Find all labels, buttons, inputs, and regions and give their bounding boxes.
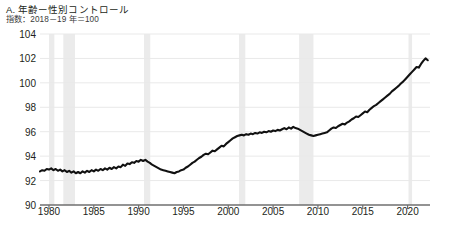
- x-axis-tick-label: 2020: [396, 206, 418, 217]
- y-axis-tick-label: 102: [19, 53, 36, 64]
- x-axis-tick-label: 1990: [127, 206, 149, 217]
- y-axis-tick-label: 92: [25, 175, 36, 186]
- recession-band: [239, 34, 245, 205]
- chart-plot-area: [0, 30, 450, 212]
- page-title: A. 年齢ー性別コントロール: [6, 4, 129, 15]
- y-axis-tick-label: 104: [19, 29, 36, 40]
- recession-bands-group: [49, 34, 412, 205]
- recession-band: [49, 34, 54, 205]
- x-axis-tick-label: 2015: [352, 206, 374, 217]
- recession-band: [144, 34, 150, 205]
- x-axis-tick-label: 2000: [217, 206, 239, 217]
- figure-panel-a: A. 年齢ー性別コントロール 指数：2018－19 年＝100 90929496…: [0, 0, 450, 241]
- y-axis-labels: 9092949698100102104: [0, 30, 38, 205]
- x-axis-tick-label: 1985: [83, 206, 105, 217]
- recession-band: [299, 34, 313, 205]
- y-axis-tick-label: 98: [25, 102, 36, 113]
- chart-subtitle: 指数：2018－19 年＝100: [6, 15, 99, 25]
- x-axis-tick-label: 2010: [307, 206, 329, 217]
- x-axis-tick-label: 1980: [38, 206, 60, 217]
- x-axis-labels: 198019851990199520002005201020152020: [0, 206, 450, 222]
- y-axis-tick-label: 96: [25, 126, 36, 137]
- y-axis-tick-label: 94: [25, 151, 36, 162]
- x-axis-tick-label: 1995: [172, 206, 194, 217]
- y-axis-tick-label: 100: [19, 77, 36, 88]
- recession-band: [63, 34, 75, 205]
- recession-band: [408, 34, 412, 205]
- line-chart-svg: [0, 30, 450, 212]
- x-axis-tick-label: 2005: [262, 206, 284, 217]
